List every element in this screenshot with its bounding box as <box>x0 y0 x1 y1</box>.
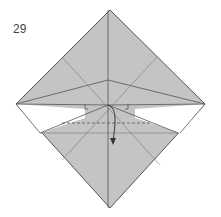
origami-diagram <box>0 0 221 217</box>
